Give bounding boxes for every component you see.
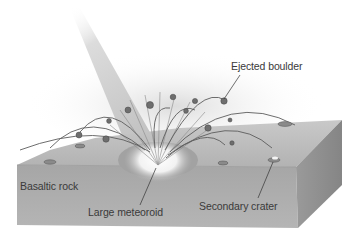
label-large-meteoroid: Large meteoroid [88,206,163,218]
impact-crater-diagram [0,0,358,241]
secondary-crater-highlight [272,157,278,160]
label-ejected-boulder: Ejected boulder [231,60,302,72]
label-basaltic-rock: Basaltic rock [20,180,78,192]
label-secondary-crater: Secondary crater [199,200,277,212]
